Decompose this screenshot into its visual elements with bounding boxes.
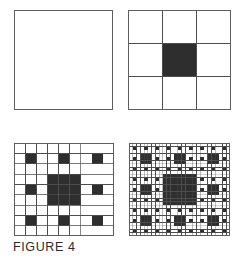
fractal-canvas-stage-2 <box>14 143 114 236</box>
fractal-panel-stage-3 <box>129 143 230 236</box>
fractal-panel-stage-2 <box>14 143 114 236</box>
fractal-panel-stage-0 <box>14 10 113 110</box>
figure-container: FIGURE 4 <box>0 0 241 263</box>
figure-caption: FIGURE 4 <box>13 240 75 254</box>
fractal-canvas-stage-1 <box>128 10 231 110</box>
fractal-panel-stage-1 <box>128 10 231 110</box>
fractal-canvas-stage-3 <box>129 143 230 236</box>
